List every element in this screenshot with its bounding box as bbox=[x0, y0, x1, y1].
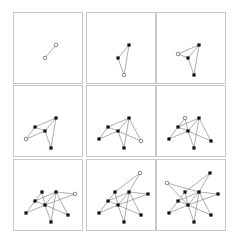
graph-node bbox=[54, 116, 57, 119]
graph-node bbox=[43, 129, 46, 132]
graph-edge bbox=[45, 131, 51, 148]
graph-node bbox=[40, 190, 43, 193]
graph-node bbox=[127, 190, 130, 193]
graph-node bbox=[167, 211, 170, 214]
graph-node bbox=[106, 199, 109, 202]
graph-diagram bbox=[87, 160, 157, 232]
graph-diagram bbox=[157, 160, 227, 232]
graph-edge bbox=[56, 192, 68, 215]
graph-node bbox=[167, 137, 170, 140]
graph-node bbox=[33, 199, 36, 202]
graph-edge bbox=[118, 58, 124, 75]
graph-diagram bbox=[87, 86, 157, 158]
graph-node bbox=[33, 125, 36, 128]
graph-node bbox=[127, 43, 130, 46]
graph-node bbox=[216, 192, 219, 195]
graph-node bbox=[139, 213, 142, 216]
graph-edge bbox=[42, 192, 45, 205]
graph-node bbox=[208, 171, 211, 174]
graph-edge bbox=[129, 192, 148, 194]
graph-node bbox=[209, 139, 212, 142]
graph-node bbox=[197, 116, 200, 119]
graph-edge bbox=[56, 192, 75, 194]
graph-node bbox=[197, 190, 200, 193]
graph-panel-1 bbox=[13, 12, 83, 84]
graph-edge bbox=[108, 118, 129, 127]
graph-node bbox=[127, 116, 130, 119]
graph-edge bbox=[199, 192, 211, 215]
graph-node bbox=[122, 220, 125, 223]
graph-node bbox=[116, 56, 119, 59]
graph-node bbox=[186, 203, 189, 206]
new-node-marker bbox=[165, 181, 169, 185]
graph-edge bbox=[188, 58, 194, 75]
new-node-marker bbox=[138, 171, 142, 175]
graph-edge bbox=[115, 192, 118, 205]
graph-edge bbox=[199, 173, 210, 192]
graph-node bbox=[49, 146, 52, 149]
graph-node bbox=[176, 199, 179, 202]
graph-diagram bbox=[87, 13, 157, 85]
graph-edge bbox=[129, 173, 140, 192]
graph-edge bbox=[118, 205, 141, 215]
graph-panel-8 bbox=[86, 159, 156, 231]
graph-node bbox=[146, 192, 149, 195]
graph-node bbox=[176, 125, 179, 128]
graph-node bbox=[197, 43, 200, 46]
graph-edge bbox=[45, 205, 68, 215]
graph-edge bbox=[199, 118, 211, 141]
graph-node bbox=[183, 190, 186, 193]
graph-panel-5 bbox=[86, 85, 156, 157]
new-node-marker bbox=[176, 52, 180, 56]
graph-edge bbox=[167, 183, 199, 192]
graph-edge bbox=[45, 45, 56, 58]
new-node-marker bbox=[139, 139, 143, 143]
graph-edge bbox=[129, 118, 141, 141]
graph-node bbox=[54, 190, 57, 193]
graph-node bbox=[209, 213, 212, 216]
graph-node bbox=[192, 220, 195, 223]
graph-node bbox=[122, 146, 125, 149]
graph-edge bbox=[35, 118, 56, 127]
graph-node bbox=[192, 73, 195, 76]
graph-node bbox=[186, 56, 189, 59]
graph-node bbox=[49, 220, 52, 223]
graph-edge bbox=[178, 45, 199, 54]
new-node-marker bbox=[122, 73, 126, 77]
graph-panel-7 bbox=[13, 159, 83, 231]
graph-diagram bbox=[14, 86, 84, 158]
graph-edge bbox=[199, 192, 218, 194]
new-node-marker bbox=[54, 43, 58, 47]
graph-diagram bbox=[14, 160, 84, 232]
graph-edge bbox=[129, 192, 141, 215]
graph-diagram bbox=[157, 86, 227, 158]
graph-node bbox=[192, 146, 195, 149]
graph-panel-2 bbox=[86, 12, 156, 84]
new-node-marker bbox=[24, 137, 28, 141]
graph-node bbox=[116, 129, 119, 132]
graph-node bbox=[116, 203, 119, 206]
graph-panel-6 bbox=[156, 85, 226, 157]
graph-edge bbox=[188, 131, 211, 141]
graph-node bbox=[186, 129, 189, 132]
new-node-marker bbox=[73, 192, 77, 196]
graph-diagram bbox=[14, 13, 84, 85]
graph-panel-9 bbox=[156, 159, 226, 231]
graph-node bbox=[97, 137, 100, 140]
graph-node bbox=[66, 213, 69, 216]
new-node-marker bbox=[43, 56, 47, 60]
graph-panel-4 bbox=[13, 85, 83, 157]
new-node-marker bbox=[183, 116, 187, 120]
graph-edge bbox=[188, 205, 211, 215]
graph-panel-3 bbox=[156, 12, 226, 84]
graph-node bbox=[24, 211, 27, 214]
graph-node bbox=[106, 125, 109, 128]
graph-edge bbox=[118, 131, 141, 141]
graph-node bbox=[113, 190, 116, 193]
graph-node bbox=[43, 203, 46, 206]
graph-node bbox=[97, 211, 100, 214]
graph-edge bbox=[115, 173, 140, 192]
graph-diagram bbox=[157, 13, 227, 85]
